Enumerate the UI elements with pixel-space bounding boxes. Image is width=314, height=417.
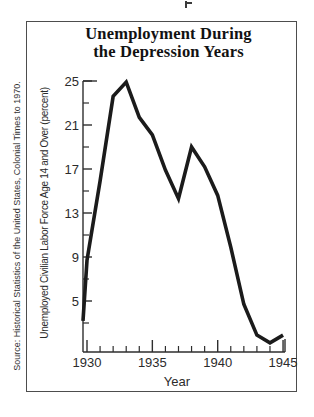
unemployment-line-chart: 59131721251930193519401945 [0, 0, 314, 417]
y-tick-label: 9 [72, 250, 79, 265]
x-tick-label: 1935 [138, 355, 167, 370]
scanned-chart-page: Unemployment During the Depression Years… [0, 0, 314, 417]
x-tick-label: 1940 [203, 355, 232, 370]
x-tick-label: 1945 [269, 355, 298, 370]
y-tick-label: 13 [65, 206, 79, 221]
y-tick-label: 25 [65, 74, 79, 89]
y-tick-label: 21 [65, 118, 79, 133]
unemployment-data-line [83, 82, 283, 343]
x-tick-label: 1930 [73, 355, 102, 370]
y-tick-label: 5 [72, 294, 79, 309]
y-tick-label: 17 [65, 162, 79, 177]
